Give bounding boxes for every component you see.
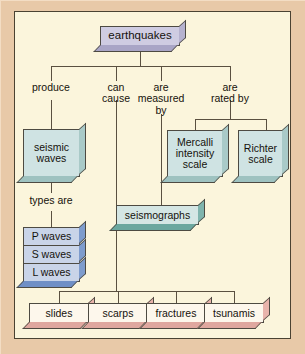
connector-rated-by-bus	[195, 119, 266, 120]
edge-label-measured-by: are measured by	[133, 82, 189, 116]
node-scarps[interactable]: scarps	[88, 303, 148, 323]
node-l-waves-label: L waves	[30, 267, 72, 278]
node-seismographs[interactable]: seismographs	[116, 205, 199, 225]
node-tsunamis[interactable]: tsunamis	[204, 303, 264, 323]
connector-drop-measured-by	[161, 66, 162, 81]
connector-drop-fractures	[176, 291, 177, 303]
connector-drop-rated-by	[230, 66, 231, 81]
node-slides-label: slides	[44, 308, 75, 319]
node-seismic-waves[interactable]: seismic waves	[23, 129, 80, 177]
node-tsunamis-label: tsunamis	[211, 308, 257, 319]
node-mercalli-intensity-scale-label: Mercalli intensity scale	[168, 137, 222, 170]
node-richter-scale-label: Richter scale	[239, 143, 282, 165]
connector-drop-tsunamis	[234, 291, 235, 303]
node-richter-scale[interactable]: Richter scale	[238, 130, 283, 177]
edge-label-rated-by: are rated by	[198, 82, 262, 105]
node-p-waves-label: P waves	[30, 231, 74, 242]
connector-drop-slides	[59, 291, 60, 303]
node-group-wave-types: P waves S waves L waves	[23, 227, 80, 282]
connector-drop-scarps	[118, 291, 119, 303]
connector-drop-produce	[51, 66, 52, 81]
connector-drop-richter	[266, 119, 267, 130]
connector-types-are-to-waves-stack	[51, 211, 52, 227]
connector-effects-bus	[59, 291, 234, 292]
node-s-waves[interactable]: S waves	[23, 245, 80, 264]
connector-drop-can-cause	[116, 66, 117, 81]
diagram-frame: earthquakes produce can cause are measur…	[14, 11, 291, 339]
node-fractures[interactable]: fractures	[146, 303, 206, 323]
node-s-waves-label: S waves	[30, 249, 74, 260]
concept-map-canvas: earthquakes produce can cause are measur…	[0, 0, 305, 354]
node-fractures-label: fractures	[154, 308, 199, 319]
connector-drop-mercalli	[195, 119, 196, 130]
node-mercalli-intensity-scale[interactable]: Mercalli intensity scale	[167, 130, 223, 177]
node-seismic-waves-label: seismic waves	[24, 142, 79, 164]
node-earthquakes-label: earthquakes	[106, 30, 173, 42]
node-seismographs-label: seismographs	[123, 210, 192, 221]
connector-measured-by-to-seismographs	[161, 114, 162, 205]
node-earthquakes[interactable]: earthquakes	[100, 26, 180, 46]
edge-label-types-are: types are	[22, 195, 80, 206]
edge-label-produce: produce	[19, 82, 83, 93]
node-p-waves[interactable]: P waves	[23, 227, 80, 246]
node-l-waves[interactable]: L waves	[23, 263, 80, 282]
node-scarps-label: scarps	[101, 308, 136, 319]
node-slides[interactable]: slides	[29, 303, 89, 323]
connector-can-cause-stem	[116, 100, 117, 291]
connector-main-bus	[51, 66, 230, 67]
connector-produce-to-seismic-waves	[51, 100, 52, 129]
